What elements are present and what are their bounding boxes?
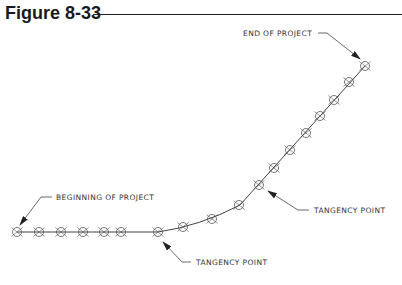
station-marker [300,129,311,138]
label-tangency-upper: TANGENCY POINT [313,206,385,215]
station-marker [359,62,370,71]
callout-beginning-of-project: BEGINNING OF PROJECT [20,193,154,225]
station-marker [284,146,295,155]
station-marker [343,78,354,87]
callout-tangency-upper: TANGENCY POINT [268,191,385,215]
label-end-of-project: END OF PROJECT [243,29,312,38]
station-marker [328,96,339,105]
label-tangency-lower: TANGENCY POINT [195,258,267,267]
leader-beginning-of-project [20,197,52,225]
alignment-centerline [17,66,365,232]
leader-end-of-project [318,33,360,59]
label-beginning-of-project: BEGINNING OF PROJECT [56,193,154,202]
station-marker [233,201,244,210]
station-marker [253,181,264,190]
station-marker [314,112,325,121]
callout-end-of-project: END OF PROJECT [243,29,360,59]
station-marker [268,164,279,173]
alignment-diagram: END OF PROJECT BEGINNING OF PROJECT TANG… [0,0,402,285]
leader-tangency-upper [268,191,309,210]
callout-tangency-lower: TANGENCY POINT [163,242,267,267]
station-marker [177,223,188,232]
leader-tangency-lower [163,242,191,262]
